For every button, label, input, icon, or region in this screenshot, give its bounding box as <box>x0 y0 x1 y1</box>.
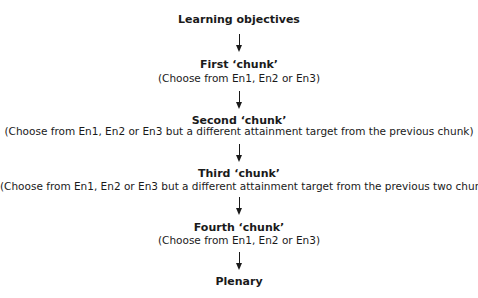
down-arrow-icon <box>236 144 242 162</box>
step-fourth-chunk-title: Fourth ‘chunk’ <box>0 221 478 234</box>
down-arrow-icon <box>236 252 242 270</box>
down-arrow-icon <box>236 91 242 109</box>
down-arrow-icon <box>236 34 242 52</box>
step-first-chunk-title: First ‘chunk’ <box>0 58 478 71</box>
step-third-chunk-title: Third ‘chunk’ <box>0 167 478 180</box>
step-second-chunk-subtitle: (Choose from En1, En2 or En3 but a diffe… <box>0 125 478 137</box>
step-third-chunk-subtitle: (Choose from En1, En2 or En3 but a diffe… <box>0 180 478 192</box>
step-first-chunk-subtitle: (Choose from En1, En2 or En3) <box>0 72 478 84</box>
step-learning-objectives: Learning objectives <box>0 13 478 26</box>
step-fourth-chunk-subtitle: (Choose from En1, En2 or En3) <box>0 234 478 246</box>
down-arrow-icon <box>236 197 242 215</box>
step-plenary: Plenary <box>0 275 478 288</box>
